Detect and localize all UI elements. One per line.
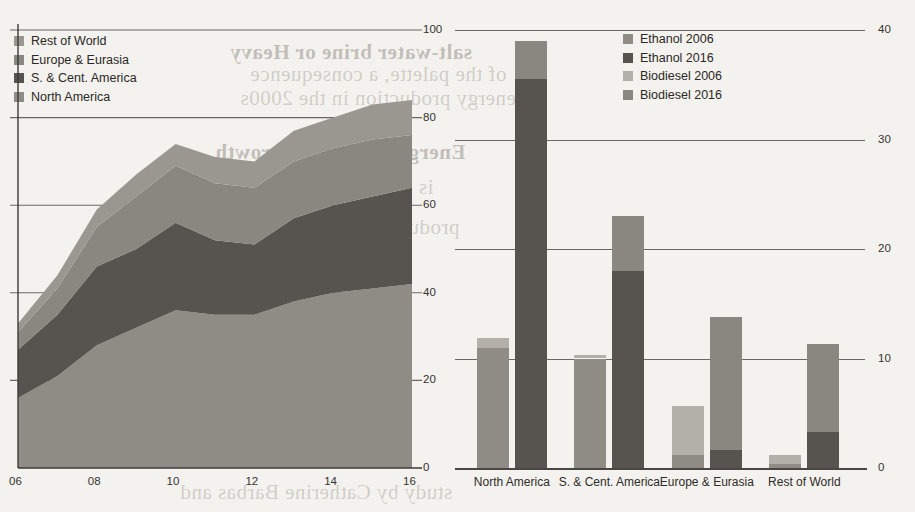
bar-segment bbox=[477, 338, 509, 348]
bar-segment bbox=[574, 355, 606, 358]
x-tick-label: 06 bbox=[9, 475, 22, 487]
bar-segment bbox=[807, 344, 839, 432]
x-tick-label: 16 bbox=[403, 475, 416, 487]
x-tick-label: 08 bbox=[88, 475, 101, 487]
bar-segment bbox=[515, 79, 547, 468]
y-tick-label: 10 bbox=[878, 352, 891, 364]
right-chart-panel: Ethanol 2006Ethanol 2016Biodiesel 2006Bi… bbox=[455, 0, 915, 512]
y-tick-label: 60 bbox=[423, 198, 436, 210]
y-tick-label: 0 bbox=[423, 461, 429, 473]
bar-segment bbox=[672, 455, 704, 468]
page-root: salt-water brine or Heavyof the palette,… bbox=[0, 0, 915, 512]
bar-segment bbox=[672, 406, 704, 455]
x-axis-line bbox=[455, 468, 867, 470]
y-tick-label: 80 bbox=[423, 111, 436, 123]
stacked-area-plot bbox=[0, 0, 455, 512]
y-tick-label: 100 bbox=[423, 23, 442, 35]
bar-segment bbox=[612, 271, 644, 468]
x-tick-label: 10 bbox=[167, 475, 180, 487]
left-chart-panel: Rest of WorldEurope & EurasiaS. & Cent. … bbox=[0, 0, 455, 512]
gridline bbox=[455, 30, 865, 31]
y-tick-label: 0 bbox=[878, 461, 884, 473]
bar-segment bbox=[574, 359, 606, 469]
bar-segment bbox=[710, 317, 742, 451]
bar-segment bbox=[477, 348, 509, 468]
bar-segment bbox=[710, 450, 742, 468]
bar-segment bbox=[612, 216, 644, 271]
category-label: Rest of World bbox=[729, 475, 879, 489]
y-tick-label: 20 bbox=[423, 373, 436, 385]
bar-segment bbox=[515, 41, 547, 79]
bar-segment bbox=[807, 432, 839, 468]
x-tick-label: 14 bbox=[324, 475, 337, 487]
y-tick-label: 30 bbox=[878, 133, 891, 145]
y-tick-label: 40 bbox=[423, 286, 436, 298]
grouped-bar-plot bbox=[455, 0, 915, 512]
y-tick-label: 40 bbox=[878, 23, 891, 35]
x-tick-label: 12 bbox=[245, 475, 258, 487]
y-tick-label: 20 bbox=[878, 242, 891, 254]
bar-segment bbox=[769, 455, 801, 464]
